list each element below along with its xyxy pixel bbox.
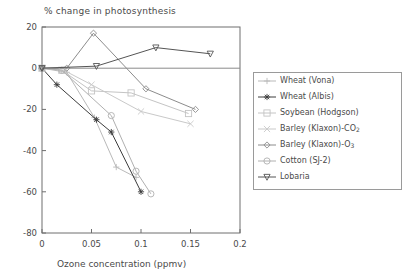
data-point-marker	[207, 51, 213, 57]
legend-item: Cotton (SJ-2)	[254, 153, 401, 169]
x-tick-label: 0	[39, 239, 44, 249]
x-axis-label: Ozone concentration (ppmv)	[57, 259, 186, 269]
series-line	[42, 68, 191, 124]
legend-marker-triangle-down	[254, 169, 280, 185]
y-tick-label: -60	[23, 187, 37, 197]
x-tick-label: 0.1	[134, 239, 148, 249]
x-tick-label: 0.15	[181, 239, 200, 249]
chart-title: % change in photosynthesis	[44, 6, 176, 16]
legend-item-label: Barley (Klaxon)-CO2	[280, 121, 360, 138]
legend-item: Wheat (Vona)	[254, 73, 401, 89]
legend-item: Lobaria	[254, 169, 401, 185]
legend-item: Barley (Klaxon)-O3	[254, 137, 401, 153]
chart-page: % change in photosynthesis 200-20-40-60-…	[0, 0, 411, 278]
legend-item: Barley (Klaxon)-CO2	[254, 121, 401, 137]
x-tick-label: 0.2	[233, 239, 247, 249]
chart-legend: Wheat (Vona)Wheat (Albis)Soybean (Hodgso…	[253, 72, 402, 190]
legend-marker-diamond	[254, 137, 280, 153]
legend-item: Wheat (Albis)	[254, 89, 401, 105]
data-point-marker	[192, 106, 198, 112]
legend-marker-asterisk	[254, 89, 280, 105]
legend-item-label: Wheat (Vona)	[280, 73, 334, 89]
legend-item-label: Wheat (Albis)	[280, 89, 334, 105]
legend-item-label: Soybean (Hodgson)	[280, 105, 359, 121]
legend-item-label: Barley (Klaxon)-O3	[280, 137, 354, 154]
legend-marker-circle	[254, 153, 280, 169]
y-tick-label: -20	[23, 104, 37, 114]
plot-area: 200-20-40-60-8000.050.10.150.2	[0, 18, 250, 268]
legend-item-label: Cotton (SJ-2)	[280, 153, 331, 169]
legend-item: Soybean (Hodgson)	[254, 105, 401, 121]
y-tick-label: -40	[23, 146, 37, 156]
x-tick-label: 0.05	[82, 239, 101, 249]
legend-item-label: Lobaria	[280, 169, 310, 185]
series-barley-klaxon-co2	[39, 65, 194, 127]
legend-marker-square	[254, 105, 280, 121]
legend-marker-plus	[254, 73, 280, 89]
y-tick-label: -80	[23, 228, 37, 238]
y-tick-label: 0	[32, 63, 37, 73]
y-tick-label: 20	[26, 22, 37, 32]
legend-marker-x	[254, 121, 280, 137]
